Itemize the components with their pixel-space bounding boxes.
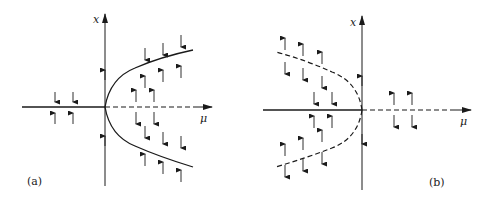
parabola-lower-unstable xyxy=(276,110,362,167)
parabola-lower-stable xyxy=(105,107,193,167)
flow-arrows-inner xyxy=(285,62,332,156)
flow-arrows-inner xyxy=(136,66,181,148)
x-axis-label: x xyxy=(93,13,100,26)
flow-arrows-left xyxy=(55,92,73,124)
bifurcation-diagram: x μ xyxy=(0,0,490,201)
panel-a-label: (a) xyxy=(27,175,42,188)
x-axis-label: x xyxy=(350,16,357,29)
mu-axis-label: μ xyxy=(200,112,207,125)
panel-b: x μ xyxy=(263,16,471,190)
flow-arrows-outer xyxy=(285,38,322,177)
parabola-upper-stable xyxy=(105,50,193,107)
panel-a: x μ xyxy=(22,13,212,188)
mu-axis-label: μ xyxy=(460,115,467,128)
panel-b-label: (b) xyxy=(429,176,445,189)
parabola-upper-unstable xyxy=(276,52,362,110)
